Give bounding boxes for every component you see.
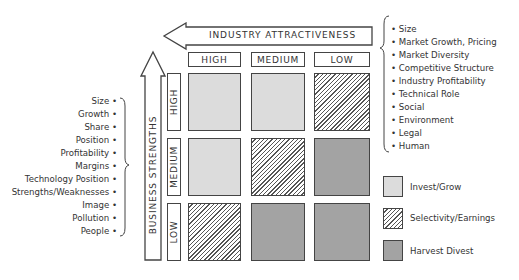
list-item: • Market Diversity	[391, 50, 469, 60]
column-header-low: LOW	[314, 52, 370, 67]
list-item: Pollution •	[72, 213, 117, 223]
legend-swatch-invest-grow	[383, 176, 403, 197]
list-item: Growth •	[78, 109, 117, 119]
list-item: Profitability •	[60, 148, 117, 158]
row-header-high: HIGH	[167, 73, 181, 131]
row-header-low: LOW	[167, 203, 181, 261]
cell-low-high-selectivity	[188, 203, 241, 261]
column-header-high: HIGH	[188, 52, 241, 67]
cell-medium-low-harvest	[314, 138, 370, 196]
list-item: • Legal	[391, 128, 422, 138]
list-item: People •	[81, 226, 117, 236]
column-header-medium: MEDIUM	[251, 52, 305, 67]
industry-factors-list: • Size • Market Growth, Pricing • Market…	[391, 24, 519, 154]
cell-high-low-selectivity	[314, 73, 370, 131]
cell-medium-high-invest-grow	[188, 138, 241, 196]
legend-label-harvest-divest: Harvest Divest	[410, 246, 473, 256]
business-factors-list: Size • Growth • Share • Position • Profi…	[0, 96, 117, 236]
list-item: • Social	[391, 102, 424, 112]
cell-low-low-harvest	[314, 203, 370, 261]
row-header-medium: MEDIUM	[167, 138, 181, 196]
right-brace-icon	[379, 14, 391, 154]
cell-high-high-invest-grow	[188, 73, 241, 131]
list-item: Position •	[76, 135, 117, 145]
list-item: Image •	[82, 200, 117, 210]
list-item: Technology Position •	[25, 174, 117, 184]
left-brace-icon	[118, 96, 130, 240]
legend-swatch-harvest-divest	[383, 240, 403, 261]
list-item: Share •	[84, 122, 117, 132]
list-item: Size •	[92, 96, 117, 106]
cell-low-medium-harvest	[251, 203, 305, 261]
list-item: • Size	[391, 24, 416, 34]
list-item: • Human	[391, 141, 430, 151]
list-item: Strengths/Weaknesses •	[12, 187, 117, 197]
list-item: • Environment	[391, 115, 454, 125]
list-item: • Industry Profitability	[391, 76, 486, 86]
cell-high-medium-invest-grow	[251, 73, 305, 131]
industry-attractiveness-label: INDUSTRY ATTRACTIVENESS	[195, 30, 370, 40]
list-item: • Market Growth, Pricing	[391, 37, 497, 47]
list-item: Margins •	[75, 161, 117, 171]
list-item: • Technical Role	[391, 89, 460, 99]
list-item: • Competitive Structure	[391, 63, 494, 73]
legend-label-invest-grow: Invest/Grow	[410, 182, 461, 192]
legend-label-selectivity: Selectivity/Earnings	[410, 213, 495, 223]
legend-swatch-selectivity	[383, 208, 403, 229]
cell-medium-medium-selectivity	[251, 138, 305, 196]
